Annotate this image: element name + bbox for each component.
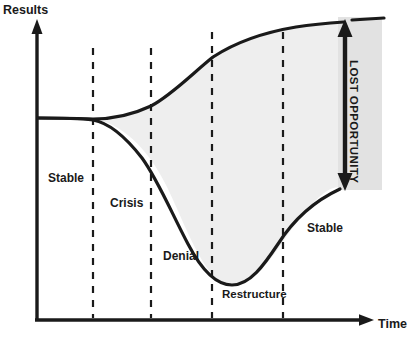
- diagram-canvas: Results Time Stable Crisis Denial Restru…: [0, 0, 408, 341]
- phase-label-crisis: Crisis: [110, 197, 143, 209]
- x-axis-arrowhead: [359, 314, 374, 325]
- lost-opportunity-label: LOST OPPORTUNITY: [348, 60, 360, 183]
- y-axis-label: Results: [3, 4, 48, 17]
- phase-label-stable-initial: Stable: [48, 172, 84, 184]
- phase-label-denial: Denial: [163, 250, 199, 262]
- phase-label-stable-recovered: Stable: [307, 222, 343, 234]
- y-axis-arrowhead: [32, 19, 43, 34]
- x-axis-label: Time: [378, 318, 407, 331]
- x-axis: [35, 314, 374, 325]
- phase-label-restructure: Restructure: [222, 289, 287, 301]
- y-axis: [32, 19, 43, 321]
- lost-opportunity-shaded-region-fix: [93, 22, 345, 285]
- upper-curve-tail-segment: [352, 18, 384, 20]
